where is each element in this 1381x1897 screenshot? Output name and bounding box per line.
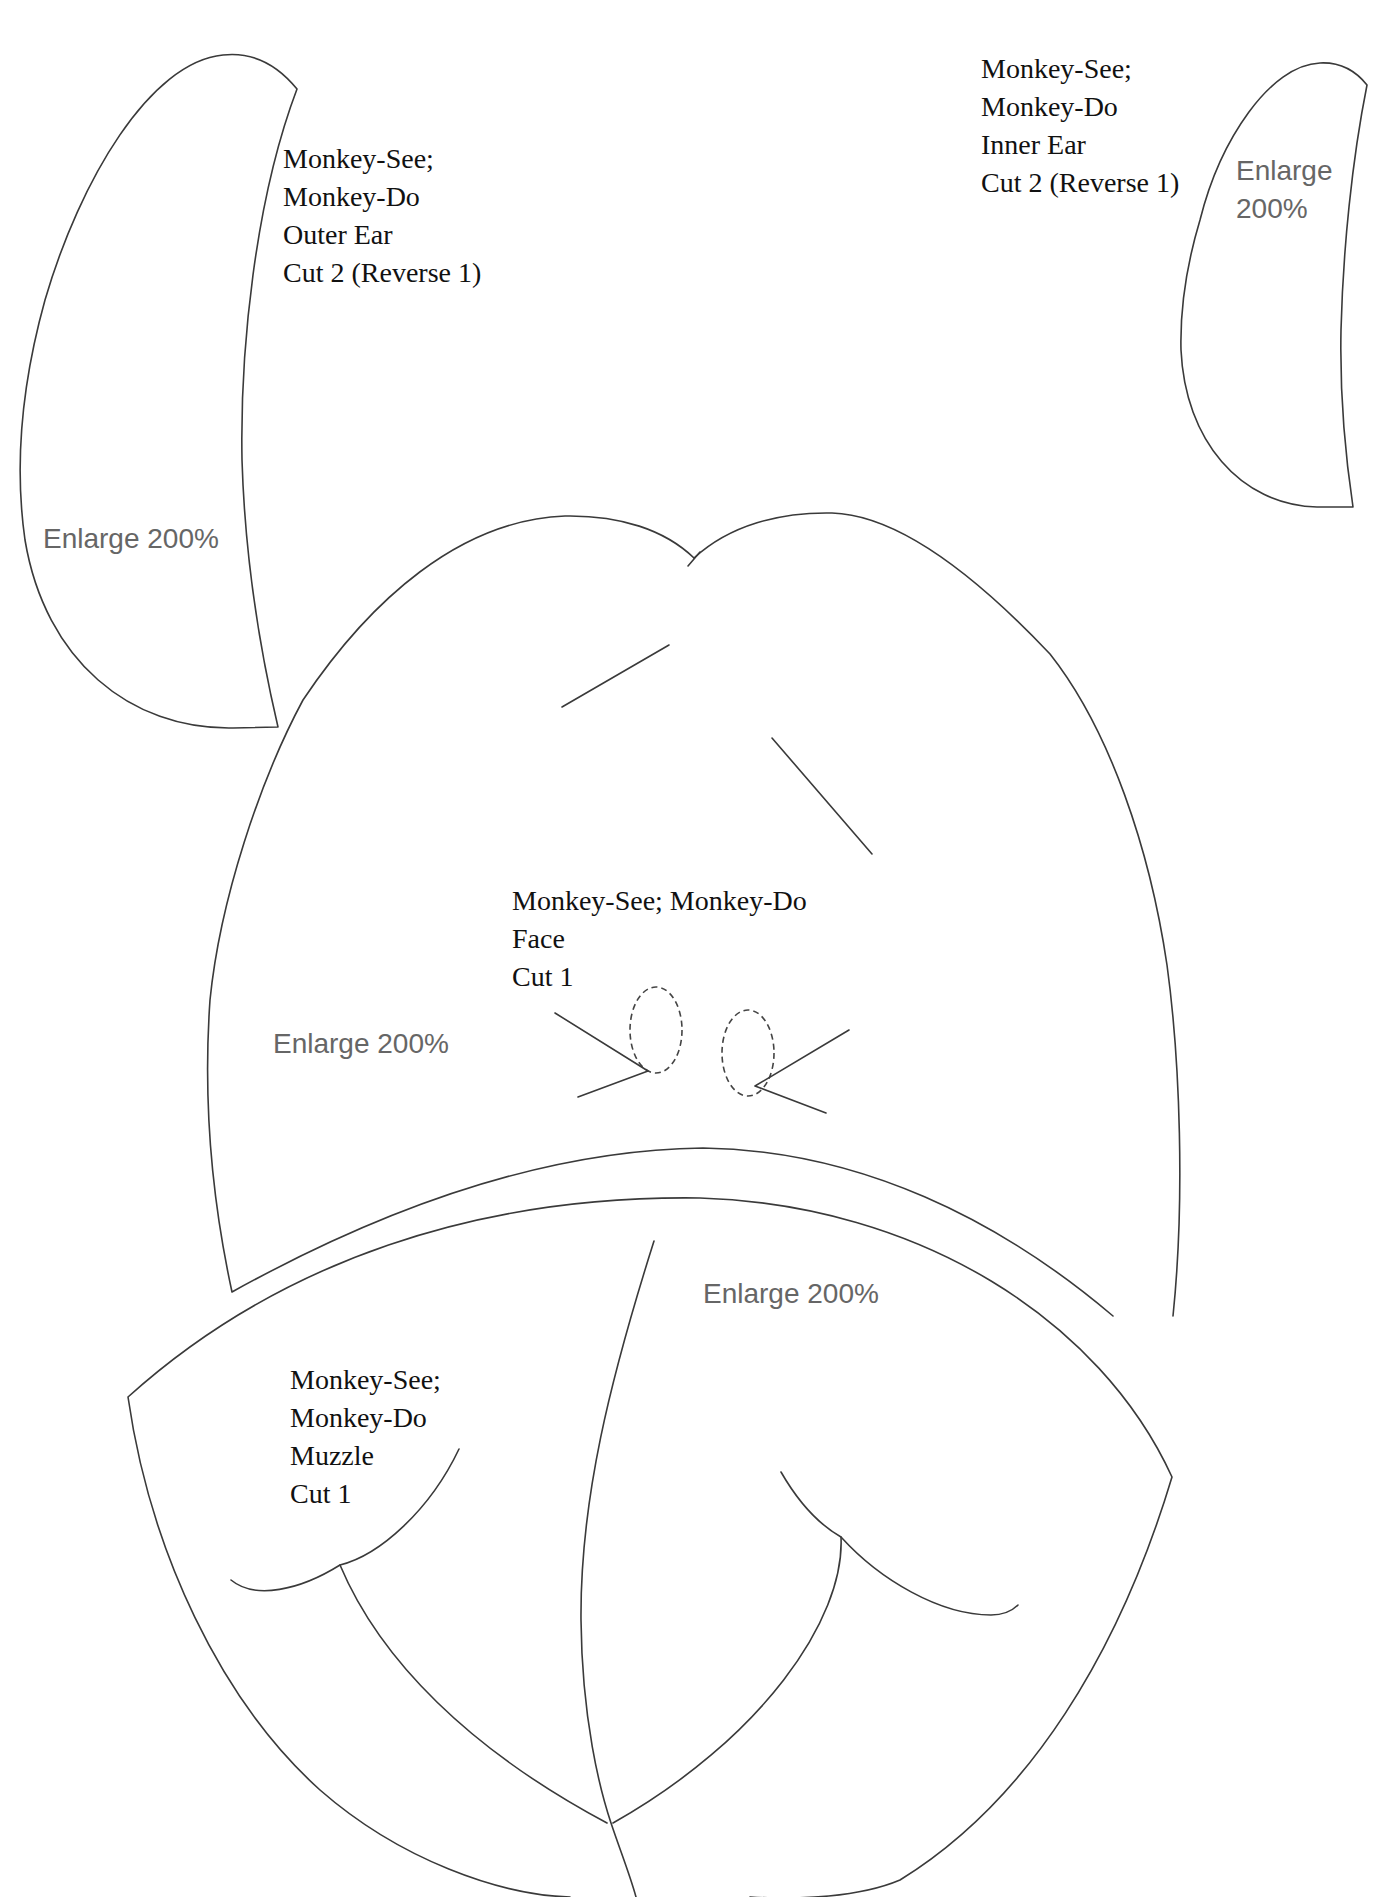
monkey-pattern-sheet: Monkey-See; Monkey-Do Outer Ear Cut 2 (R… bbox=[0, 0, 1381, 1897]
enlarge-note-text: Enlarge 200% bbox=[43, 520, 219, 558]
face-label-line: Cut 1 bbox=[512, 958, 807, 996]
outer-ear-label-line: Cut 2 (Reverse 1) bbox=[283, 254, 481, 292]
enlarge-note-text: Enlarge 200% bbox=[273, 1025, 449, 1063]
inner-ear-label-line: Monkey-Do bbox=[981, 88, 1179, 126]
eyebrow-slit-right bbox=[772, 738, 872, 854]
inner-ear-label-line: Cut 2 (Reverse 1) bbox=[981, 164, 1179, 202]
outer-ear-label: Monkey-See; Monkey-Do Outer Ear Cut 2 (R… bbox=[283, 140, 481, 292]
muzzle-center-seam bbox=[581, 1241, 654, 1897]
enlarge-note-text: Enlarge bbox=[1236, 152, 1333, 190]
outer-ear-outline bbox=[20, 54, 297, 728]
muzzle-right-chin bbox=[613, 1537, 841, 1823]
inner-ear-label: Monkey-See; Monkey-Do Inner Ear Cut 2 (R… bbox=[981, 50, 1179, 202]
face-label: Monkey-See; Monkey-Do Face Cut 1 bbox=[512, 882, 807, 996]
inner-ear-label-line: Monkey-See; bbox=[981, 50, 1179, 88]
eye-hole-left bbox=[630, 987, 682, 1073]
muzzle-enlarge-note: Enlarge 200% bbox=[703, 1275, 879, 1313]
muzzle-label-line: Cut 1 bbox=[290, 1475, 441, 1513]
face-label-line: Face bbox=[512, 920, 807, 958]
eye-hole-right bbox=[722, 1010, 774, 1096]
outer-ear-enlarge-note: Enlarge 200% bbox=[43, 520, 219, 558]
muzzle-right-cheek bbox=[781, 1472, 1018, 1615]
muzzle-label-line: Muzzle bbox=[290, 1437, 441, 1475]
face-label-line: Monkey-See; Monkey-Do bbox=[512, 882, 807, 920]
inner-ear-enlarge-note: Enlarge 200% bbox=[1236, 152, 1333, 228]
muzzle-outline bbox=[128, 1198, 1172, 1897]
inner-ear-outline bbox=[1181, 63, 1367, 507]
muzzle-label-line: Monkey-See; bbox=[290, 1361, 441, 1399]
inner-ear-label-line: Inner Ear bbox=[981, 126, 1179, 164]
outer-ear-label-line: Outer Ear bbox=[283, 216, 481, 254]
eyebrow-slit-left bbox=[562, 645, 669, 707]
outer-ear-label-line: Monkey-Do bbox=[283, 178, 481, 216]
muzzle-label-line: Monkey-Do bbox=[290, 1399, 441, 1437]
muzzle-left-chin bbox=[340, 1565, 607, 1823]
enlarge-note-text: 200% bbox=[1236, 190, 1333, 228]
outer-ear-label-line: Monkey-See; bbox=[283, 140, 481, 178]
eye-dart-right bbox=[755, 1030, 849, 1113]
face-enlarge-note: Enlarge 200% bbox=[273, 1025, 449, 1063]
enlarge-note-text: Enlarge 200% bbox=[703, 1275, 879, 1313]
muzzle-label: Monkey-See; Monkey-Do Muzzle Cut 1 bbox=[290, 1361, 441, 1513]
